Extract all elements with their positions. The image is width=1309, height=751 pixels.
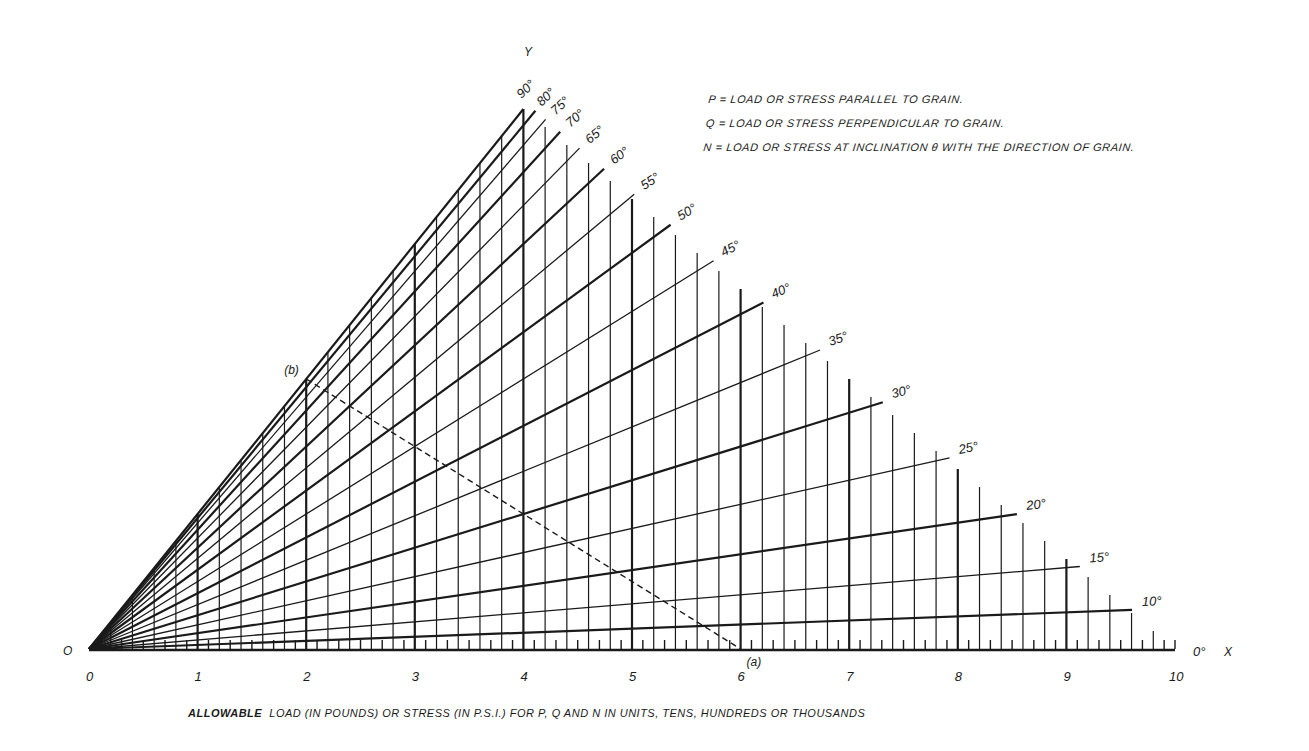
- x-tick-label: 1: [195, 669, 202, 684]
- angle-line-80: [89, 111, 535, 649]
- angle-line-20: [89, 514, 1017, 649]
- x-tick-label: 7: [846, 669, 854, 684]
- angle-line-60: [89, 169, 604, 649]
- x-tick-label: 4: [520, 669, 527, 684]
- angle-label-0: 0°: [1193, 644, 1205, 659]
- x-axis-label: X: [1223, 645, 1233, 659]
- note-n: N = LOAD OR STRESS AT INCLINATION θ WITH…: [702, 135, 1136, 159]
- x-tick-label: 3: [412, 669, 420, 684]
- x-tick-label: 10: [1169, 669, 1184, 684]
- angle-label-15: 15°: [1089, 549, 1110, 565]
- point-b-label: (b): [284, 363, 299, 377]
- x-tick-label: 9: [1063, 669, 1070, 684]
- angle-line-25: [89, 458, 950, 649]
- angle-label-50: 50°: [674, 200, 699, 223]
- origin-label: O: [63, 644, 72, 658]
- x-axis-ticks: [100, 640, 1175, 649]
- angle-label-60: 60°: [607, 143, 632, 167]
- angle-label-30: 30°: [890, 382, 913, 401]
- angle-label-45: 45°: [718, 237, 742, 259]
- angle-label-20: 20°: [1024, 496, 1046, 513]
- angle-line-35: [89, 350, 820, 649]
- angle-label-55: 55°: [638, 169, 663, 192]
- note-q: Q = LOAD OR STRESS PERPENDICULAR TO GRAI…: [705, 111, 1139, 135]
- angle-label-10: 10°: [1142, 593, 1162, 609]
- legend-notes: P = LOAD OR STRESS PARALLEL TO GRAIN. Q …: [702, 87, 1141, 159]
- angle-label-40: 40°: [769, 280, 793, 302]
- y-axis-label: Y: [524, 45, 533, 59]
- vertical-grid-lines: [111, 109, 1154, 649]
- caption-rest: LOAD (IN POUNDS) OR STRESS (IN P.S.I.) F…: [262, 707, 865, 719]
- point-a-label: (a): [747, 655, 762, 669]
- x-axis-tick-labels: 012345678910: [86, 669, 1184, 684]
- angle-label-65: 65°: [582, 122, 607, 146]
- angle-line-30: [89, 402, 883, 649]
- x-tick-label: 8: [955, 669, 963, 684]
- x-tick-label: 2: [302, 669, 311, 684]
- x-tick-label: 5: [629, 669, 637, 684]
- angle-line-45: [89, 261, 714, 649]
- x-axis-caption: ALLOWABLE LOAD (IN POUNDS) OR STRESS (IN…: [188, 707, 865, 719]
- angle-line-15: [89, 566, 1080, 649]
- note-p: P = LOAD OR STRESS PARALLEL TO GRAIN.: [707, 87, 1141, 111]
- x-tick-label: 0: [86, 669, 94, 684]
- angle-line-40: [89, 303, 763, 649]
- angle-label-25: 25°: [956, 439, 979, 458]
- angle-line-75: [89, 119, 546, 649]
- x-tick-label: 6: [738, 669, 746, 684]
- angle-label-35: 35°: [826, 328, 849, 349]
- caption-bold: ALLOWABLE: [188, 707, 262, 719]
